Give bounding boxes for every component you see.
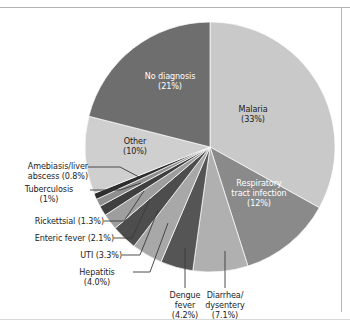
slice-label-uti: UTI (3.3%) [0,250,122,260]
slice-label-respiratory-name2: tract infection [213,188,305,198]
slice-label-enteric-fever-text: Enteric fever (2.1%) [35,233,114,243]
slice-label-rickettsial-text: Rickettsial (1.3%) [35,216,104,226]
slice-label-amebiasis: Amebiasis/liver abscess (0.8%) [0,161,88,181]
slice-label-tuberculosis-name: Tuberculosis [25,184,73,194]
slice-label-diarrhea-pct: (7.1%) [193,310,257,320]
slice-label-other: Other (10%) [106,136,164,156]
slice-label-uti-text: UTI (3.3%) [80,250,122,260]
slice-label-respiratory-name1: Respiratory [236,178,281,188]
slice-label-diarrhea-name2: dysentery [193,300,257,310]
slice-label-respiratory: Respiratory tract infection (12%) [213,178,305,209]
slice-label-no-diagnosis-name: No diagnosis [145,71,196,81]
slice-label-malaria-name: Malaria [239,104,268,114]
slice-label-malaria: Malaria (33%) [216,104,290,124]
slice-label-malaria-pct: (33%) [216,114,290,124]
slice-label-other-pct: (10%) [106,146,164,156]
slice-label-tuberculosis: Tuberculosis (1%) [8,184,90,204]
slice-label-other-name: Other [124,136,146,146]
slice-label-no-diagnosis: No diagnosis (21%) [122,71,218,91]
slice-label-hepatitis-name: Hepatitis [79,267,114,277]
slice-label-no-diagnosis-pct: (21%) [122,81,218,91]
slice-label-enteric-fever: Enteric fever (2.1%) [0,233,114,243]
slice-label-amebiasis-name1: Amebiasis/liver [28,161,88,171]
slice-label-rickettsial: Rickettsial (1.3%) [0,216,104,226]
pie-chart-figure: No diagnosis (21%) Malaria (33%) Respira… [0,0,350,325]
slice-label-tuberculosis-pct: (1%) [8,194,90,204]
slice-label-hepatitis: Hepatitis (4.0%) [62,267,132,287]
slice-label-diarrhea-name1: Diarrhea/ [207,290,244,300]
slice-label-diarrhea-dysentery: Diarrhea/ dysentery (7.1%) [193,290,257,321]
slice-label-amebiasis-name2: abscess (0.8%) [0,171,88,181]
slice-label-respiratory-pct: (12%) [213,198,305,208]
slice-label-hepatitis-pct: (4.0%) [62,277,132,287]
